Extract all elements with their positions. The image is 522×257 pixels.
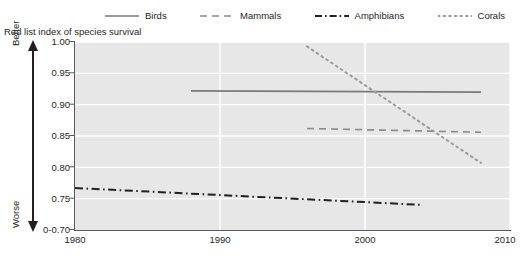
legend-label-birds: Birds xyxy=(145,11,167,21)
series-line-amphibians xyxy=(75,188,423,205)
dotted-line-icon xyxy=(438,11,472,21)
y-axis-tickmarks xyxy=(69,41,75,231)
legend-label-mammals: Mammals xyxy=(240,11,281,21)
x-tick-2: 1990 xyxy=(190,234,250,245)
plot-canvas xyxy=(75,42,510,230)
chart-root: Birds Mammals Amphibians xyxy=(0,0,522,257)
x-axis-line xyxy=(74,230,511,231)
y-tick-6: 0.75 xyxy=(24,194,70,204)
y-tick-2: 0.95 xyxy=(24,68,70,78)
y-tick-4: 0.85 xyxy=(24,131,70,141)
y-tick-3: 0.90 xyxy=(24,100,70,110)
solid-line-icon xyxy=(105,11,139,21)
y-axis-labels: 1.00 0.95 0.90 0.85 0.80 0.75 0-0.70 xyxy=(20,0,70,257)
legend-item-amphibians[interactable]: Amphibians xyxy=(315,11,405,21)
legend-item-corals[interactable]: Corals xyxy=(438,11,505,21)
x-axis-labels: 1980 1990 2000 2010 xyxy=(0,234,522,248)
y-tick-5: 0.80 xyxy=(24,163,70,173)
x-tick-3: 2000 xyxy=(335,234,395,245)
legend-label-corals: Corals xyxy=(478,11,505,21)
chart-legend: Birds Mammals Amphibians xyxy=(105,8,505,24)
dashed-line-icon xyxy=(200,11,234,21)
legend-label-amphibians: Amphibians xyxy=(355,11,405,21)
plot-area xyxy=(75,42,510,230)
legend-item-mammals[interactable]: Mammals xyxy=(200,11,281,21)
y-tick-1: 1.00 xyxy=(24,37,70,47)
series-line-mammals xyxy=(307,128,481,132)
series-line-birds xyxy=(191,91,481,92)
x-tick-4: 2010 xyxy=(475,234,522,245)
x-tick-1: 1980 xyxy=(45,234,105,245)
legend-item-birds[interactable]: Birds xyxy=(105,11,167,21)
dash-dot-line-icon xyxy=(315,11,349,21)
